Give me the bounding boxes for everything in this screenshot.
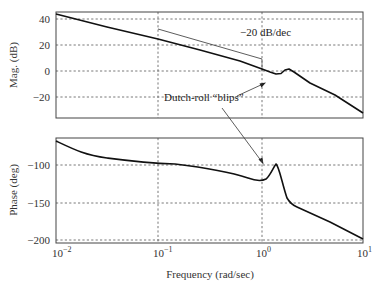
dutch-roll-annotation: Dutch-roll “blips” bbox=[164, 91, 244, 103]
svg-text:10−2: 10−2 bbox=[52, 245, 72, 259]
magnitude-panel: 40 20 0 −20 Mag. (dB) −20 dB/dec Dutch-r… bbox=[7, 12, 363, 118]
x-tick-exp: −1 bbox=[164, 245, 173, 254]
mag-tick-label: 40 bbox=[39, 13, 51, 25]
phase-panel: −100 −150 −200 Phase (deg) 10−2 10−1 100… bbox=[7, 138, 372, 281]
x-tick-exp: −2 bbox=[63, 245, 72, 254]
bode-plot: 40 20 0 −20 Mag. (dB) −20 dB/dec Dutch-r… bbox=[0, 0, 379, 285]
svg-text:101: 101 bbox=[357, 245, 372, 259]
x-axis-label: Frequency (rad/sec) bbox=[166, 268, 254, 281]
x-tick-base: 10 bbox=[357, 247, 369, 259]
x-tick-label: 101 bbox=[357, 245, 372, 259]
x-tick-exp: 1 bbox=[368, 245, 372, 254]
x-tick-label: 10−2 bbox=[52, 245, 72, 259]
x-tick-exp: 0 bbox=[267, 245, 271, 254]
phase-frame bbox=[56, 138, 363, 243]
svg-text:10−1: 10−1 bbox=[153, 245, 173, 259]
phase-tick-label: −150 bbox=[27, 197, 50, 209]
svg-text:100: 100 bbox=[256, 245, 271, 259]
x-tick-base: 10 bbox=[52, 247, 64, 259]
mag-axis-label: Mag. (dB) bbox=[7, 42, 20, 88]
phase-curve bbox=[56, 141, 363, 239]
phase-tick-label: −100 bbox=[27, 159, 50, 171]
x-tick-label: 10−1 bbox=[153, 245, 173, 259]
mag-tick-label: 0 bbox=[45, 65, 51, 77]
x-tick-label: 100 bbox=[256, 245, 271, 259]
x-tick-base: 10 bbox=[256, 247, 268, 259]
x-tick-base: 10 bbox=[153, 247, 165, 259]
annotation-arrow bbox=[222, 108, 262, 162]
annotation-arrow bbox=[237, 84, 263, 96]
mag-tick-label: 20 bbox=[39, 39, 51, 51]
phase-tick-label: −200 bbox=[27, 234, 50, 246]
mag-tick-label: −20 bbox=[33, 91, 51, 103]
slope-annotation: −20 dB/dec bbox=[240, 26, 291, 38]
arrow-head-icon bbox=[260, 83, 267, 88]
phase-axis-label: Phase (deg) bbox=[7, 164, 20, 216]
